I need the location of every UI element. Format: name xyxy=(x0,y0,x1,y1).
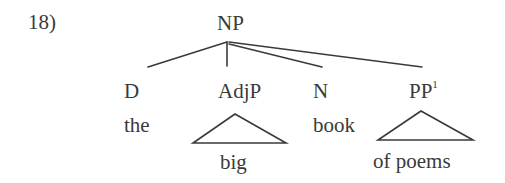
leaf-book: book xyxy=(313,115,355,136)
leaf-of-poems: of poems xyxy=(373,151,451,172)
node-d: D xyxy=(124,81,139,102)
adjp-triangle xyxy=(193,114,286,143)
leaf-the: the xyxy=(124,115,150,136)
node-n: N xyxy=(313,81,328,102)
branch-np-d xyxy=(148,42,227,67)
node-pp-superscript: 1 xyxy=(432,78,438,90)
node-np: NP xyxy=(217,13,244,34)
node-pp-label: PP xyxy=(409,79,432,103)
pp-triangle xyxy=(378,111,473,140)
node-adjp: AdjP xyxy=(218,81,261,102)
node-pp: PP1 xyxy=(409,81,438,102)
branch-np-pp xyxy=(229,42,422,67)
leaf-big: big xyxy=(220,152,247,173)
